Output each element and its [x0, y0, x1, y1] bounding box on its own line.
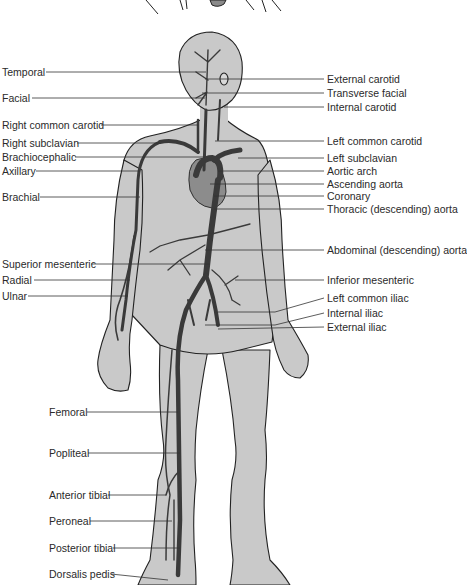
label-peroneal: Peroneal — [49, 515, 91, 527]
label-posterior-tibial: Posterior tibial — [49, 542, 116, 554]
label-ascending-aorta: Ascending aorta — [327, 178, 403, 190]
label-left-common-carotid: Left common carotid — [327, 135, 422, 147]
label-brachiocephalic: Brachiocephalic — [2, 151, 76, 163]
label-right-subclavian: Right subclavian — [2, 137, 79, 149]
label-radial: Radial — [2, 274, 32, 286]
label-brachial: Brachial — [2, 191, 40, 203]
label-inferior-mesenteric: Inferior mesenteric — [327, 274, 414, 286]
label-coronary: Coronary — [327, 190, 370, 202]
label-transverse-facial: Transverse facial — [327, 87, 407, 99]
label-ulnar: Ulnar — [2, 290, 27, 302]
label-dorsalis-pedis: Dorsalis pedis — [49, 568, 115, 580]
label-popliteal: Popliteal — [49, 447, 89, 459]
label-right-common-carotid: Right common carotid — [2, 119, 104, 131]
label-anterior-tibial: Anterior tibial — [49, 489, 110, 501]
label-aortic-arch: Aortic arch — [327, 165, 377, 177]
label-external-carotid: External carotid — [327, 73, 400, 85]
label-internal-carotid: Internal carotid — [327, 101, 396, 113]
label-femoral: Femoral — [49, 406, 88, 418]
body-silhouette — [98, 32, 309, 585]
label-superior-mesenteric: Superior mesenteric — [2, 258, 96, 270]
label-facial: Facial — [2, 92, 30, 104]
label-temporal: Temporal — [2, 66, 45, 78]
label-left-common-iliac: Left common iliac — [327, 292, 409, 304]
label-axillary: Axillary — [2, 165, 36, 177]
label-internal-iliac: Internal iliac — [327, 307, 383, 319]
label-external-iliac: External iliac — [327, 321, 387, 333]
cropped-top-remnant — [146, 0, 281, 14]
label-thoracic-aorta: Thoracic (descending) aorta — [327, 203, 458, 215]
label-abdominal-aorta: Abdominal (descending) aorta — [327, 244, 467, 256]
label-left-subclavian: Left subclavian — [327, 152, 397, 164]
